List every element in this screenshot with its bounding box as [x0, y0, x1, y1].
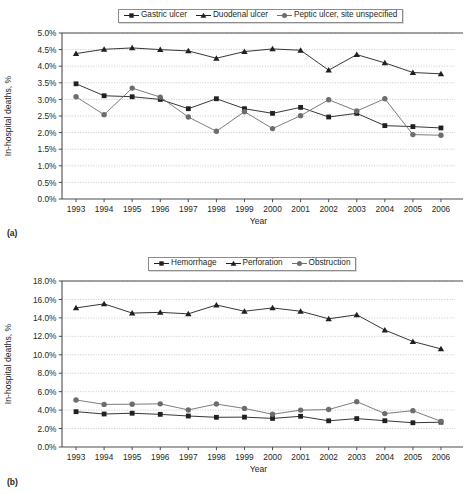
data-point [101, 301, 107, 307]
series-perforation [73, 301, 444, 352]
y-axis-ticks: 0.0%0.5%1.0%1.5%2.0%2.5%3.0%3.5%4.0%4.5%… [38, 28, 62, 204]
data-point [73, 94, 78, 99]
y-tick-label: 2.0% [38, 128, 58, 138]
x-tick-label: 1997 [179, 452, 198, 462]
data-point [101, 112, 106, 117]
figure-a: Gastric ulcerDuodenal ulcerPeptic ulcer,… [0, 0, 473, 247]
data-point [270, 412, 275, 417]
data-point [129, 45, 135, 51]
data-point [158, 412, 163, 417]
data-point [439, 126, 444, 131]
y-tick-label: 2.5% [38, 111, 58, 121]
y-tick-label: 0.0% [38, 442, 58, 452]
x-tick-label: 1996 [151, 452, 170, 462]
x-tick-label: 1993 [67, 204, 86, 214]
data-point [73, 397, 78, 402]
data-point [325, 67, 331, 73]
figure-b: HemorrhagePerforationObstruction 0.0%2.0… [0, 247, 473, 494]
y-tick-label: 4.5% [38, 45, 58, 55]
x-tick-label: 1994 [95, 204, 114, 214]
series-gastric-ulcer [74, 81, 444, 130]
series-line [76, 48, 441, 74]
data-point [382, 96, 387, 101]
y-axis-ticks: 0.0%2.0%4.0%6.0%8.0%10.0%12.0%14.0%16.0%… [33, 276, 62, 452]
x-tick-label: 1998 [207, 452, 226, 462]
y-tick-label: 5.0% [38, 28, 58, 38]
data-point [269, 305, 275, 311]
data-point [158, 401, 163, 406]
x-tick-label: 1998 [207, 204, 226, 214]
gridlines [62, 281, 455, 429]
data-point [186, 407, 191, 412]
x-tick-label: 2005 [404, 452, 423, 462]
x-tick-label: 1994 [95, 452, 114, 462]
y-tick-label: 0.5% [38, 178, 58, 188]
y-tick-label: 16.0% [33, 295, 57, 305]
data-point [214, 96, 219, 101]
data-point [410, 124, 415, 129]
data-point [129, 402, 134, 407]
data-point [242, 109, 247, 114]
x-tick-label: 1995 [123, 452, 142, 462]
x-tick-label: 2001 [291, 204, 310, 214]
data-point [242, 415, 247, 420]
y-axis-title: In-hospital deaths, % [3, 76, 13, 157]
data-point [298, 407, 303, 412]
data-point [74, 409, 79, 414]
y-tick-label: 12.0% [33, 331, 57, 341]
data-point [242, 406, 247, 411]
data-point [326, 407, 331, 412]
series-obstruction [73, 397, 443, 424]
data-point [410, 420, 415, 425]
series-peptic-ulcer-site-unspecified [73, 85, 443, 138]
y-tick-label: 1.5% [38, 144, 58, 154]
data-point [410, 408, 415, 413]
x-axis-title: Year [250, 464, 268, 474]
series-line [76, 304, 441, 349]
series-line [76, 84, 441, 128]
data-point [130, 411, 135, 416]
chart-figure-b: 0.0%2.0%4.0%6.0%8.0%10.0%12.0%14.0%16.0%… [0, 247, 473, 494]
data-point [438, 419, 443, 424]
data-point [438, 133, 443, 138]
data-point [382, 418, 387, 423]
panel-label-b: (b) [7, 477, 18, 487]
x-tick-label: 2000 [263, 204, 282, 214]
x-tick-label: 2006 [432, 204, 451, 214]
data-point [382, 411, 387, 416]
gridlines [62, 33, 455, 182]
data-point [326, 115, 331, 120]
data-point [382, 123, 387, 128]
data-point [214, 401, 219, 406]
y-tick-label: 8.0% [38, 368, 58, 378]
y-tick-label: 0.0% [38, 194, 58, 204]
data-point [298, 105, 303, 110]
data-point [326, 97, 331, 102]
data-point [269, 46, 275, 52]
data-point [410, 338, 416, 344]
x-tick-label: 1997 [179, 204, 198, 214]
data-point [270, 126, 275, 131]
x-tick-label: 2006 [432, 452, 451, 462]
panel-label-a: (a) [7, 228, 17, 238]
x-tick-label: 2001 [291, 452, 310, 462]
data-point [354, 416, 359, 421]
x-tick-label: 1993 [67, 452, 86, 462]
x-tick-label: 2002 [319, 204, 338, 214]
data-point [102, 412, 107, 417]
y-tick-label: 1.0% [38, 161, 58, 171]
x-tick-label: 1995 [123, 204, 142, 214]
data-point [354, 108, 359, 113]
data-point [382, 327, 388, 333]
data-point [354, 51, 360, 57]
data-point [354, 399, 359, 404]
y-tick-label: 14.0% [33, 313, 57, 323]
data-point [186, 114, 191, 119]
x-axis-ticks: 1993199419951996199719981999200020012002… [67, 447, 451, 462]
data-point [410, 132, 415, 137]
data-point [101, 402, 106, 407]
data-point [214, 415, 219, 420]
y-tick-label: 6.0% [38, 387, 58, 397]
data-point [186, 106, 191, 111]
data-point [298, 414, 303, 419]
